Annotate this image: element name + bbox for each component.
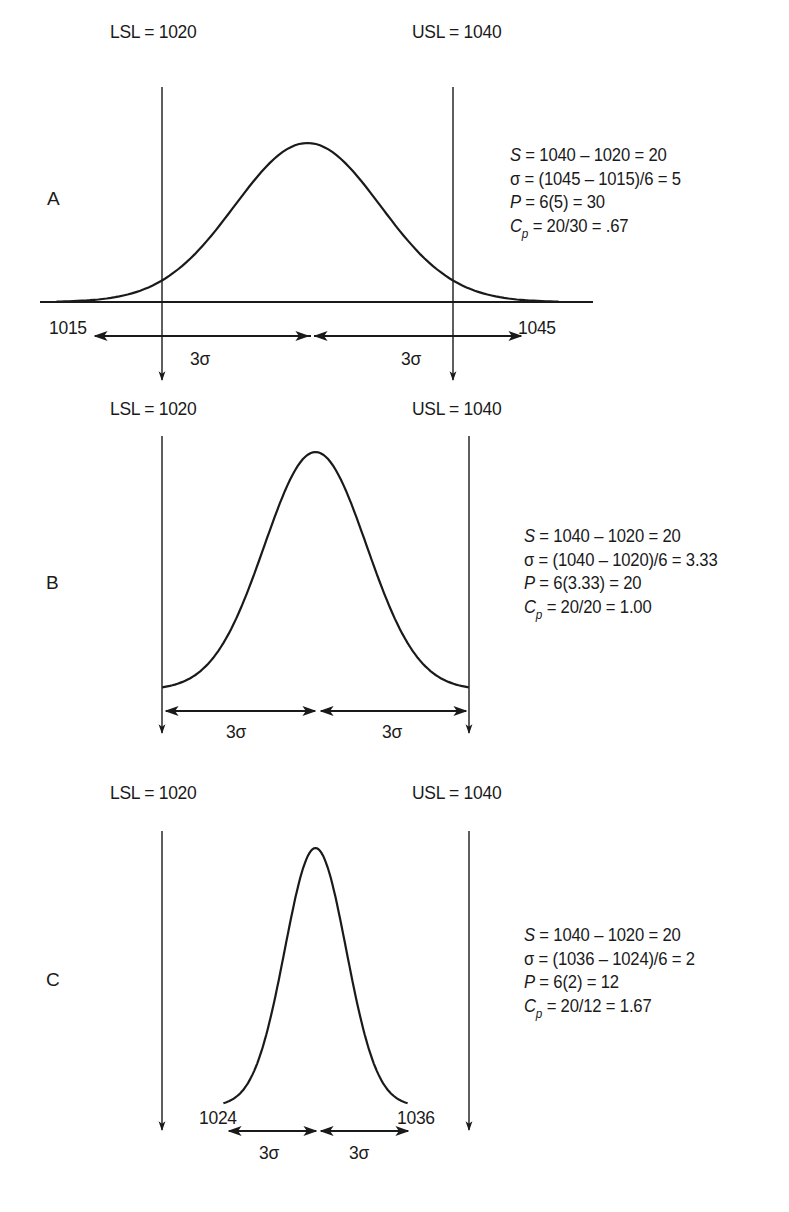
panel-c (162, 831, 469, 1131)
formula-p: P = 6(2) = 12 (524, 970, 695, 994)
usl-label-b: USL = 1040 (412, 399, 501, 419)
formula-s: S = 1040 – 1020 = 20 (510, 143, 681, 167)
lsl-label-a: LSL = 1020 (110, 22, 197, 42)
usl-label-c: USL = 1040 (412, 783, 501, 803)
tail-low-label-a: 1015 (49, 318, 87, 338)
lsl-label-b: LSL = 1020 (110, 399, 197, 419)
panel-letter-c: C (46, 969, 60, 991)
formula-sigma: σ = (1036 – 1024)/6 = 2 (524, 947, 695, 971)
normal-curve-c (223, 848, 407, 1103)
usl-label-a: USL = 1040 (412, 22, 501, 42)
tail-low-label-c: 1024 (199, 1108, 237, 1128)
formulas-a: S = 1040 – 1020 = 20 σ = (1045 – 1015)/6… (510, 143, 681, 237)
panel-b (162, 436, 469, 733)
sigma-left-label-b: 3σ (226, 722, 246, 742)
normal-curve-b (162, 452, 469, 687)
formulas-c: S = 1040 – 1020 = 20 σ = (1036 – 1024)/6… (524, 923, 695, 1017)
formula-cp: Cp = 20/12 = 1.67 (524, 994, 695, 1018)
tail-high-label-a: 1045 (518, 318, 556, 338)
formula-p: P = 6(3.33) = 20 (524, 571, 718, 595)
panel-letter-b: B (46, 572, 59, 594)
formulas-b: S = 1040 – 1020 = 20 σ = (1040 – 1020)/6… (524, 524, 718, 618)
sigma-left-label-c: 3σ (259, 1143, 279, 1163)
formula-s: S = 1040 – 1020 = 20 (524, 923, 695, 947)
formula-sigma: σ = (1045 – 1015)/6 = 5 (510, 167, 681, 191)
panel-letter-a: A (47, 188, 60, 210)
sigma-right-label-a: 3σ (401, 349, 421, 369)
sigma-right-label-c: 3σ (349, 1143, 369, 1163)
formula-cp: Cp = 20/30 = .67 (510, 214, 681, 238)
formula-s: S = 1040 – 1020 = 20 (524, 524, 718, 548)
tail-high-label-c: 1036 (397, 1108, 435, 1128)
sigma-right-label-b: 3σ (382, 722, 402, 742)
formula-sigma: σ = (1040 – 1020)/6 = 3.33 (524, 548, 718, 572)
normal-curve-a (57, 143, 559, 302)
formula-cp: Cp = 20/20 = 1.00 (524, 595, 718, 619)
sigma-left-label-a: 3σ (190, 349, 210, 369)
lsl-label-c: LSL = 1020 (110, 783, 197, 803)
formula-p: P = 6(5) = 30 (510, 190, 681, 214)
